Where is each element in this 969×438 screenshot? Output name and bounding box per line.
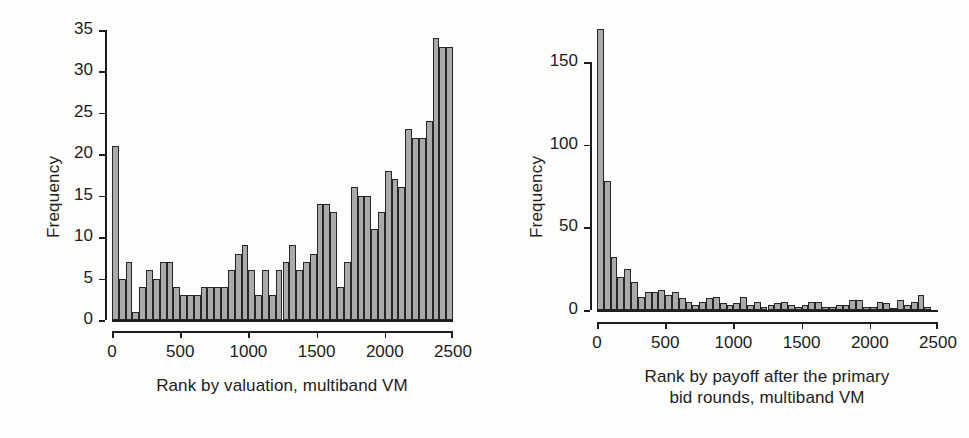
histogram-bar xyxy=(310,254,317,320)
y-axis-line xyxy=(590,62,592,310)
histogram-bar xyxy=(883,303,890,310)
histogram-bar xyxy=(112,146,119,320)
y-tick-label: 0 xyxy=(35,309,93,329)
histogram-bar xyxy=(856,300,863,310)
y-tick-mark xyxy=(99,113,105,115)
x-tick-mark xyxy=(597,322,599,329)
histogram-bar xyxy=(242,245,249,320)
y-tick-label: 30 xyxy=(35,60,93,80)
histogram-bar xyxy=(877,302,884,310)
x-axis-label-right: Rank by payoff after the primary bid rou… xyxy=(577,366,957,409)
chart-panel-left: Frequency Rank by valuation, multiband V… xyxy=(0,0,485,438)
histogram-bar xyxy=(405,129,412,320)
histogram-bar xyxy=(119,279,126,320)
histogram-bar xyxy=(672,292,679,310)
y-tick-mark xyxy=(584,145,590,147)
x-tick-mark xyxy=(112,331,114,338)
y-tick-label: 35 xyxy=(35,19,93,39)
histogram-bar xyxy=(255,295,262,320)
histogram-bar xyxy=(645,292,652,310)
histogram-bar xyxy=(638,297,645,310)
histogram-bar xyxy=(139,287,146,320)
y-tick-mark xyxy=(99,154,105,156)
histogram-bar xyxy=(126,262,133,320)
histogram-bar xyxy=(248,270,255,320)
x-tick-mark xyxy=(385,331,387,338)
x-tick-mark xyxy=(451,331,453,338)
histogram-bar xyxy=(611,257,618,310)
y-tick-mark xyxy=(584,62,590,64)
histogram-bar xyxy=(808,302,815,310)
y-tick-label: 5 xyxy=(35,268,93,288)
y-tick-label: 15 xyxy=(35,185,93,205)
histogram-bar xyxy=(153,279,160,320)
histogram-bar xyxy=(426,121,433,320)
histogram-bar xyxy=(235,254,242,320)
histogram-bar xyxy=(720,303,727,310)
histogram-bar xyxy=(624,269,631,310)
histogram-bar xyxy=(180,295,187,320)
histogram-bar xyxy=(160,262,167,320)
histogram-bar xyxy=(344,262,351,320)
histogram-bar xyxy=(173,287,180,320)
histogram-bar xyxy=(652,292,659,310)
y-tick-mark xyxy=(99,279,105,281)
histogram-bar xyxy=(419,138,426,320)
histogram-bar xyxy=(303,262,310,320)
y-axis-line xyxy=(105,30,107,320)
histogram-bar xyxy=(296,270,303,320)
x-tick-mark xyxy=(936,322,938,329)
histogram-bar xyxy=(597,29,604,310)
histogram-bar xyxy=(214,287,221,320)
x-tick-mark xyxy=(665,322,667,329)
histogram-bar xyxy=(371,229,378,320)
histogram-bar xyxy=(221,287,228,320)
histogram-bar xyxy=(385,171,392,320)
x-tick-label: 2500 xyxy=(413,342,493,362)
y-tick-label: 100 xyxy=(520,134,578,154)
x-axis-line xyxy=(597,322,938,324)
y-tick-mark xyxy=(99,71,105,73)
histogram-bar xyxy=(897,300,904,310)
x-axis-line xyxy=(112,331,453,333)
histogram-bar xyxy=(706,298,713,310)
chart-panel-right: Frequency Rank by payoff after the prima… xyxy=(485,0,969,438)
x-tick-mark xyxy=(317,331,319,338)
y-tick-mark xyxy=(99,237,105,239)
histogram-bar xyxy=(446,47,453,320)
x-tick-mark xyxy=(870,322,872,329)
histogram-bar xyxy=(228,270,235,320)
histogram-bar xyxy=(617,277,624,310)
histogram-bar xyxy=(781,302,788,310)
histogram-bar xyxy=(774,303,781,310)
histogram-bar xyxy=(378,212,385,320)
histogram-bar xyxy=(337,287,344,320)
y-tick-mark xyxy=(99,320,105,322)
y-tick-mark xyxy=(584,310,590,312)
y-tick-label: 50 xyxy=(520,216,578,236)
histogram-bar xyxy=(364,196,371,320)
histogram-bar xyxy=(631,282,638,310)
histogram-bar xyxy=(207,287,214,320)
x-tick-mark xyxy=(248,331,250,338)
plot-baseline xyxy=(112,320,453,322)
histogram-bar xyxy=(323,204,330,320)
y-tick-label: 0 xyxy=(520,299,578,319)
histogram-bar xyxy=(132,312,139,320)
x-axis-label-left: Rank by valuation, multiband VM xyxy=(92,375,472,396)
histogram-bar xyxy=(201,287,208,320)
y-tick-label: 25 xyxy=(35,102,93,122)
x-tick-mark xyxy=(802,322,804,329)
histogram-bar xyxy=(679,298,686,310)
histogram-bar xyxy=(187,295,194,320)
histogram-bar xyxy=(358,196,365,320)
histogram-bar xyxy=(686,302,693,310)
histogram-bar xyxy=(815,302,822,310)
histogram-bar xyxy=(412,138,419,320)
histogram-bar xyxy=(740,297,747,310)
histogram-bar xyxy=(269,295,276,320)
histogram-bar xyxy=(330,212,337,320)
histogram-bar xyxy=(604,181,611,310)
histogram-bar xyxy=(665,295,672,310)
histogram-bar xyxy=(167,262,174,320)
